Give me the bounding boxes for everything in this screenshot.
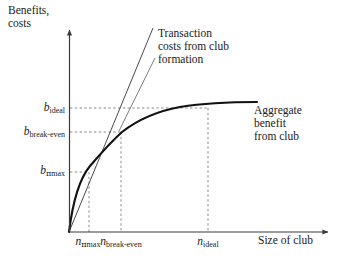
reference-gridlines-horizontal (70, 108, 208, 172)
x-axis-title: Size of club (258, 234, 313, 247)
y-axis-title-line2: costs (8, 17, 31, 29)
annotation-aggregate-benefit-line3: from club (254, 130, 299, 142)
transaction-cost-line (69, 28, 153, 232)
club-benefits-costs-figure: Benefits, costs Size of club Transaction… (0, 0, 347, 258)
annotation-transaction-costs-line2: costs from club (158, 40, 229, 52)
annotation-transaction-costs-line1: Transaction (158, 27, 212, 39)
y-axis-title-line1: Benefits, (8, 4, 49, 16)
annotation-leader-line (119, 58, 155, 131)
annotation-aggregate-benefit: Aggregate benefit from club (254, 104, 342, 143)
annotation-aggregate-benefit-line2: benefit (254, 117, 286, 129)
aggregate-benefit-curve (69, 102, 257, 232)
y-axis-title: Benefits, costs (8, 4, 70, 30)
y-tick-label-b-pimax: bπmax (2, 164, 65, 177)
x-tick-n-ideal-sub: ideal (203, 240, 219, 249)
x-tick-label-n-ideal: nideal (180, 235, 236, 248)
y-tick-b-breakeven-sub: break-even (29, 130, 65, 139)
annotation-aggregate-benefit-line1: Aggregate (254, 104, 302, 116)
y-tick-label-b-ideal: bideal (2, 101, 65, 114)
y-tick-b-pimax-sub: max (51, 169, 65, 178)
x-tick-label-n-breakeven: nbreak-even (85, 235, 157, 248)
y-tick-b-ideal-sub: ideal (49, 106, 65, 115)
x-tick-n-breakeven-sub: break-even (106, 240, 142, 249)
y-tick-label-b-breakeven: bbreak-even (2, 125, 65, 138)
reference-gridlines-vertical (89, 108, 208, 232)
annotation-transaction-costs: Transaction costs from club formation (158, 27, 262, 66)
annotation-transaction-costs-line3: formation (158, 53, 203, 65)
